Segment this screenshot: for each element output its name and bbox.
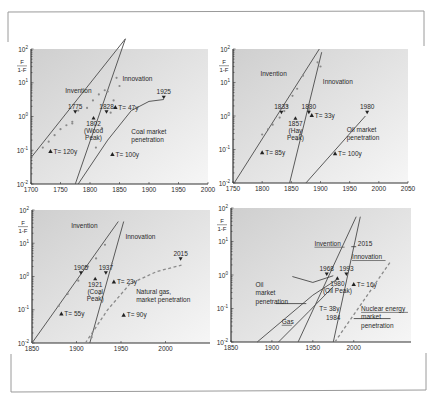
x-tick-label: 2000 — [158, 345, 173, 352]
data-point — [261, 133, 263, 135]
data-point — [91, 336, 93, 338]
x-tick-label: 1850 — [25, 345, 40, 352]
data-point — [98, 93, 100, 95]
y-tick-label: 100 — [18, 112, 28, 120]
data-point — [58, 305, 60, 307]
annotation-label: T= 120y — [53, 148, 77, 156]
annotation-label: T= 55y — [64, 310, 85, 318]
year-marker-label: 1968 — [319, 265, 334, 272]
y-tick-label: 101 — [18, 78, 28, 86]
y-tick-label: 102 — [220, 45, 230, 53]
x-tick-label: 1900 — [313, 185, 328, 192]
x-tick-label: 1950 — [342, 185, 357, 192]
y-axis-label-denominator: 1-F — [220, 67, 229, 73]
annotation-label: market — [361, 313, 381, 320]
y-tick-label: 101 — [218, 237, 228, 245]
figure-canvas: 10210110010-110-2F1-F1700175018001850190… — [0, 0, 431, 407]
annotation-label: T= 33y — [315, 112, 336, 120]
y-axis-label-numerator: F — [20, 59, 24, 65]
annotation-label: Coal market — [131, 128, 166, 135]
x-tick-label: 2050 — [401, 185, 416, 192]
annotation-label: Innovation — [125, 233, 155, 240]
data-point — [86, 107, 88, 109]
annotation-label: Nuclear energy — [361, 305, 406, 313]
y-tick-label: 10-1 — [17, 146, 29, 154]
y-tick-label: 101 — [220, 78, 230, 86]
x-tick-label: 1900 — [69, 345, 84, 352]
annotation-label: T= 100y — [115, 151, 139, 159]
annotation-label: T= 90y — [127, 311, 148, 319]
annotation-label: penetration — [361, 322, 394, 330]
annotation-label: penetration — [131, 136, 164, 144]
data-point — [272, 124, 274, 126]
annotation-label: T= 47y — [118, 104, 139, 112]
y-axis-label-numerator: F — [220, 218, 224, 224]
peak-note: 1980 — [330, 280, 345, 287]
year-marker-label: 1833 — [274, 103, 289, 110]
peak-note: 1857 — [288, 120, 303, 127]
annotation-label: T= 100y — [338, 150, 362, 158]
data-point — [48, 141, 50, 143]
x-tick-label: 1900 — [142, 186, 157, 193]
data-point — [59, 128, 61, 130]
data-point — [65, 124, 67, 126]
x-tick-label: 2000 — [372, 185, 387, 192]
annotation-label: penetration — [347, 134, 380, 142]
data-point — [113, 99, 115, 101]
x-tick-label: 1700 — [24, 186, 39, 193]
y-axis-label-denominator: 1-F — [18, 67, 27, 73]
annotation-label: Oil — [256, 281, 265, 288]
annotation-label: T= 16y — [357, 281, 378, 289]
data-point — [291, 95, 293, 97]
y-tick-label: 10-1 — [18, 305, 30, 313]
x-tick-label: 2000 — [201, 186, 216, 193]
data-point — [95, 257, 97, 259]
y-tick-label: 100 — [220, 112, 230, 120]
data-point — [104, 89, 106, 91]
y-tick-label: 102 — [18, 45, 28, 53]
y-tick-label: 101 — [19, 239, 29, 247]
plot-background — [31, 49, 208, 184]
data-point — [77, 109, 79, 111]
chart-panel-hay-oil: 10210110010-110-2F1-F1750180018501900195… — [219, 45, 416, 193]
peak-note: Peak) — [87, 295, 104, 303]
year-marker-label: 1905 — [74, 264, 89, 271]
annotation-label: Invention — [260, 70, 287, 77]
annotation-label: Innovation — [352, 253, 382, 260]
y-tick-label: 100 — [19, 272, 29, 280]
annotation-label: T= 85y — [265, 149, 286, 157]
x-tick-label: 1750 — [226, 185, 241, 192]
y-tick-label: 102 — [218, 204, 228, 212]
y-axis-label-numerator: F — [222, 59, 226, 65]
peak-note: Peak) — [287, 134, 304, 142]
x-tick-label: 1950 — [171, 186, 186, 193]
annotation-label: Innovation — [323, 78, 353, 85]
annotation-label: T= 23y — [117, 278, 138, 286]
data-point — [77, 280, 79, 282]
data-point — [92, 99, 94, 101]
year-marker-label: 1880 — [302, 103, 317, 110]
x-tick-label: 1850 — [224, 344, 239, 351]
annotation-label: Oil market — [347, 126, 377, 133]
year-marker-label: 1775 — [68, 103, 83, 110]
y-axis-label-denominator: 1-F — [19, 228, 28, 234]
year-marker-label: 1993 — [339, 265, 354, 272]
y-axis-label-numerator: F — [21, 220, 25, 226]
annotation-label: Invention — [71, 222, 98, 229]
data-point — [319, 65, 321, 67]
annotation-label: 2015 — [358, 240, 373, 247]
chart-panel-oil-nuclear: 10210110010-110-2F1-F1850190019502000196… — [217, 204, 411, 352]
data-point — [115, 77, 117, 79]
y-tick-label: 100 — [218, 271, 228, 279]
y-axis-label-denominator: 1-F — [218, 226, 227, 232]
y-tick-label: 10-1 — [219, 145, 231, 153]
data-point — [104, 244, 106, 246]
annotation-label: penetration — [256, 298, 289, 306]
data-point — [302, 75, 304, 77]
peak-note: Peak) — [85, 134, 102, 142]
chart-panel-coal-gas: 10210110010-110-2F1-F1850190019502000190… — [18, 206, 210, 353]
year-marker-label: 2015 — [173, 250, 188, 257]
data-point — [279, 116, 281, 118]
data-point — [110, 112, 112, 114]
annotation-label: Invention — [314, 240, 341, 247]
